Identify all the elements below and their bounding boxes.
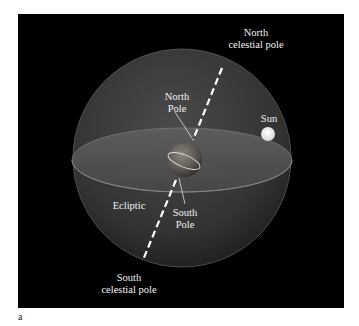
diagram-panel: North celestial pole North Pole Sun Ecli…: [18, 14, 344, 308]
label-north-celestial-pole: North celestial pole: [228, 27, 283, 51]
label-sun: Sun: [261, 113, 277, 125]
label-ecliptic: Ecliptic: [113, 200, 146, 212]
label-south-celestial-pole: South celestial pole: [101, 272, 156, 296]
earth: [168, 143, 202, 177]
celestial-sphere-diagram: [18, 14, 344, 308]
label-north-pole: North Pole: [165, 91, 190, 115]
figure-panel-letter: a: [18, 311, 22, 322]
sun: [261, 127, 275, 141]
label-south-pole: South Pole: [173, 207, 198, 231]
